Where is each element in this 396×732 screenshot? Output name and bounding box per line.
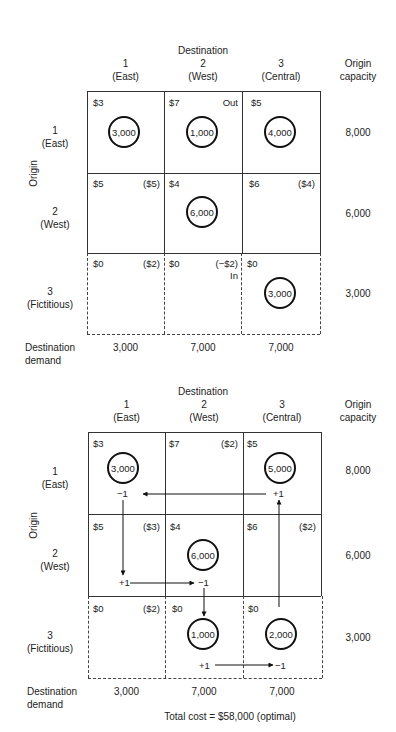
demand-label: Destinationdemand	[27, 685, 77, 711]
demand-2: 7,000	[165, 686, 243, 697]
demand-1: 3,000	[88, 686, 165, 697]
demand-3: 7,000	[243, 686, 321, 697]
total-cost: Total cost = $58,000 (optimal)	[100, 711, 360, 722]
cycle-arrows	[0, 0, 396, 732]
